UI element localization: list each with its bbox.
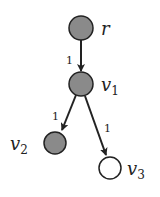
node-circle-v1 <box>69 72 93 96</box>
node-circle-r <box>69 16 93 40</box>
edge-weight-v1-v2: 1 <box>52 110 59 123</box>
node-v1: v1 <box>69 72 119 98</box>
node-v2: v2 <box>10 132 66 157</box>
tree-diagram: 1 1 1 r v1 v2 v3 <box>0 0 160 197</box>
edge-v1-v2 <box>62 95 76 130</box>
node-circle-v2 <box>44 132 66 154</box>
node-label-v2-sub: 2 <box>20 143 28 157</box>
node-r: r <box>69 16 111 40</box>
edge-v1-v3 <box>85 96 106 155</box>
edge-weight-r-v1: 1 <box>66 54 73 67</box>
node-label-r: r <box>101 18 111 39</box>
node-label-v1: v1 <box>101 74 119 98</box>
node-label-v2: v2 <box>10 133 28 157</box>
node-label-v2-main: v <box>10 133 20 154</box>
node-label-v3: v3 <box>127 158 145 182</box>
node-label-v3-main: v <box>127 158 137 179</box>
node-circle-v3 <box>99 157 121 179</box>
node-label-v3-sub: 3 <box>137 168 145 182</box>
node-v3: v3 <box>99 157 145 182</box>
edge-weight-v1-v3: 1 <box>104 122 111 135</box>
node-label-v1-main: v <box>101 74 111 95</box>
node-label-v1-sub: 1 <box>111 84 119 98</box>
